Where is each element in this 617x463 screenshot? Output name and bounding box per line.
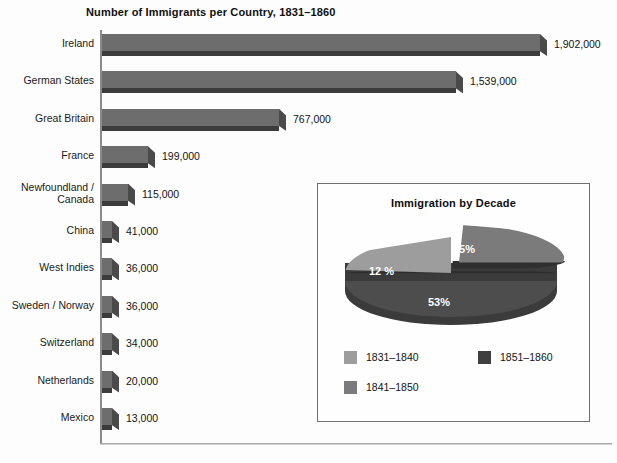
- legend-label: 1841–1850: [366, 381, 419, 393]
- bar-face: [102, 296, 112, 313]
- pie-legend-item[interactable]: 1841–1850: [344, 380, 419, 394]
- bar-chart-baseline: [100, 443, 612, 444]
- bar-end-cap: [112, 408, 119, 430]
- bar-chart-row: German States1,539,000: [0, 67, 617, 101]
- bar[interactable]: [102, 371, 112, 393]
- bar-value-label: 20,000: [126, 375, 158, 387]
- legend-color-swatch: [344, 381, 357, 394]
- bar[interactable]: [102, 221, 112, 243]
- bar-end-cap: [279, 109, 286, 131]
- bar-category-label: Newfoundland / Canada: [0, 181, 94, 205]
- bar-shadow-edge: [102, 313, 112, 318]
- bar[interactable]: [102, 71, 456, 93]
- bar[interactable]: [102, 408, 112, 430]
- bar-category-label: France: [0, 149, 94, 161]
- bar-end-cap: [112, 296, 119, 318]
- bar-category-label: Switzerland: [0, 336, 94, 348]
- pie-label-1841-1850: 35%: [453, 243, 475, 255]
- bar-value-label: 34,000: [126, 337, 158, 349]
- bar-end-cap: [112, 221, 119, 243]
- bar-shadow-edge: [102, 163, 148, 168]
- bar-shadow-edge: [102, 88, 456, 93]
- immigration-by-decade-inset-panel: Immigration by Decade 35% 12 % 53% 1831–…: [317, 183, 590, 422]
- pie-chart: 35% 12 % 53%: [331, 217, 576, 339]
- bar-chart-row: France199,000: [0, 142, 617, 176]
- bar-chart-row: Great Britain767,000: [0, 105, 617, 139]
- bar-end-cap: [128, 184, 135, 206]
- bar-face: [102, 146, 148, 163]
- bar-face: [102, 258, 112, 275]
- pie-legend-item[interactable]: 1851–1860: [478, 350, 553, 364]
- bar-shadow-edge: [102, 201, 128, 206]
- bar-end-cap: [112, 258, 119, 280]
- legend-color-swatch: [478, 351, 491, 364]
- bar-shadow-edge: [102, 238, 112, 243]
- pie-label-1851-1860: 53%: [428, 296, 450, 308]
- bar-category-label: Mexico: [0, 411, 94, 423]
- bar-category-label: Sweden / Norway: [0, 299, 94, 311]
- bar-face: [102, 371, 112, 388]
- bar-face: [102, 34, 540, 51]
- bar-value-label: 13,000: [126, 412, 158, 424]
- inset-title: Immigration by Decade: [318, 197, 589, 209]
- bar[interactable]: [102, 258, 112, 280]
- bar-shadow-edge: [102, 350, 112, 355]
- immigration-chart-figure: Number of Immigrants per Country, 1831–1…: [0, 0, 617, 463]
- bar[interactable]: [102, 296, 112, 318]
- bar[interactable]: [102, 333, 112, 355]
- bar-category-label: Netherlands: [0, 374, 94, 386]
- bar-end-cap: [112, 371, 119, 393]
- legend-label: 1831–1840: [366, 351, 419, 363]
- bar-category-label: China: [0, 224, 94, 236]
- bar-value-label: 115,000: [142, 188, 179, 200]
- page-title: Number of Immigrants per Country, 1831–1…: [86, 6, 336, 18]
- bar-shadow-edge: [102, 51, 540, 56]
- bar-value-label: 36,000: [126, 300, 158, 312]
- bar[interactable]: [102, 146, 148, 168]
- bar-value-label: 1,539,000: [470, 75, 517, 87]
- pie-legend-item[interactable]: 1831–1840: [344, 350, 419, 364]
- bar-value-label: 199,000: [162, 150, 200, 162]
- bar[interactable]: [102, 184, 128, 206]
- bar-category-label: West Indies: [0, 261, 94, 273]
- bar-face: [102, 333, 112, 350]
- bar-end-cap: [112, 333, 119, 355]
- legend-label: 1851–1860: [500, 351, 553, 363]
- bar-end-cap: [456, 71, 463, 93]
- bar-end-cap: [540, 34, 547, 56]
- bar-value-label: 36,000: [126, 262, 158, 274]
- bar-shadow-edge: [102, 425, 112, 430]
- bar-shadow-edge: [102, 126, 279, 131]
- legend-color-swatch: [344, 351, 357, 364]
- bar-face: [102, 71, 456, 88]
- bar-end-cap: [148, 146, 155, 168]
- bar-category-label: Ireland: [0, 37, 94, 49]
- bar[interactable]: [102, 109, 279, 131]
- bar-shadow-edge: [102, 275, 112, 280]
- bar[interactable]: [102, 34, 540, 56]
- bar-face: [102, 408, 112, 425]
- bar-category-label: Great Britain: [0, 112, 94, 124]
- bar-chart-row: Ireland1,902,000: [0, 30, 617, 64]
- bar-face: [102, 221, 112, 238]
- bar-value-label: 767,000: [293, 113, 331, 125]
- pie-label-1831-1840: 12 %: [369, 265, 394, 277]
- bar-shadow-edge: [102, 388, 112, 393]
- bar-value-label: 1,902,000: [554, 38, 601, 50]
- bar-face: [102, 184, 128, 201]
- bar-category-label: German States: [0, 74, 94, 86]
- bar-face: [102, 109, 279, 126]
- bar-value-label: 41,000: [126, 225, 158, 237]
